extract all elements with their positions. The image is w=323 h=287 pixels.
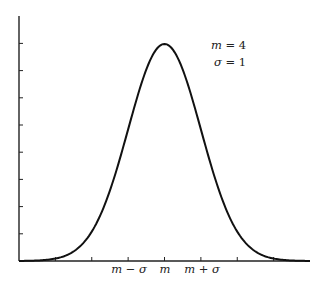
plot-area (19, 16, 310, 261)
legend-m: m = 4 (211, 38, 246, 52)
density-curve (19, 44, 310, 261)
legend-sigma: σ = 1 (214, 55, 246, 69)
normal-distribution-chart: m = 4 σ = 1 m − σ m m + σ (0, 0, 323, 287)
tick-label-m-plus-sigma: m + σ (184, 262, 221, 276)
tick-label-m-minus-sigma: m − σ (111, 262, 148, 276)
x-tick-labels: m − σ m m + σ (111, 262, 221, 276)
legend: m = 4 σ = 1 (211, 38, 246, 69)
tick-label-m: m (160, 262, 171, 276)
